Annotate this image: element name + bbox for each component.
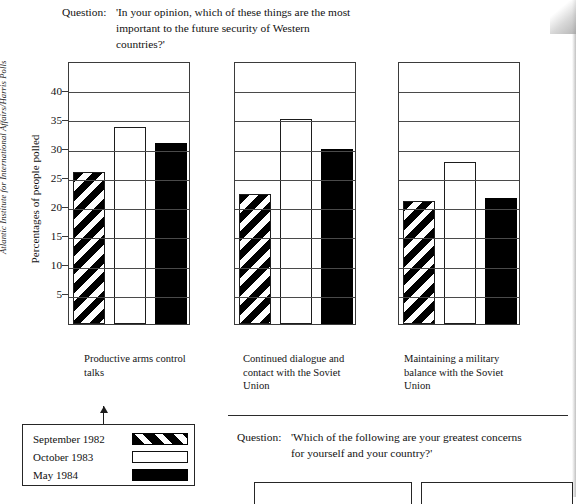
bar-3-september-1982 <box>403 201 435 324</box>
gridline-20 <box>399 209 519 210</box>
legend-label-october-1983: October 1983 <box>33 451 132 463</box>
gridline-10 <box>235 268 355 269</box>
y-tick-5: 5 <box>36 289 62 299</box>
category-label-2-line-2: contact with the Soviet <box>243 366 393 380</box>
question-bottom-line-2: for yourself and your country?' <box>291 446 522 462</box>
gridline-10 <box>69 268 189 269</box>
legend-label-september-1982: September 1982 <box>33 433 132 445</box>
y-tick-20: 20 <box>36 202 62 212</box>
category-label-2-line-1: Continued dialogue and <box>243 352 393 366</box>
gridline-35 <box>399 121 519 122</box>
category-label-2-line-3: Union <box>243 379 393 393</box>
bar-3-may-1984 <box>485 198 517 324</box>
lower-chart-panel-1 <box>254 482 412 504</box>
category-label-3-line-2: balance with the Soviet <box>404 366 554 380</box>
gridline-20 <box>235 209 355 210</box>
legend-item-may-1984: May 1984 <box>33 466 188 483</box>
question-bottom: Question: 'Which of the following are yo… <box>237 430 572 461</box>
gridline-30 <box>235 151 355 152</box>
legend-pointer-arrow-icon <box>103 406 104 425</box>
gridline-15 <box>235 238 355 239</box>
bar-1-october-1983 <box>114 127 146 324</box>
chart-panel-2 <box>234 62 356 325</box>
gridline-5 <box>235 297 355 298</box>
question-bottom-line-1: 'Which of the following are your greates… <box>291 430 522 446</box>
bar-1-september-1982 <box>73 172 105 324</box>
y-tick-40: 40 <box>36 86 62 96</box>
gridline-25 <box>69 180 189 181</box>
bar-2-september-1982 <box>239 194 271 324</box>
bar-group-1 <box>69 63 189 324</box>
bar-group-2 <box>235 63 355 324</box>
gridline-15 <box>399 238 519 239</box>
y-tick-35: 35 <box>36 115 62 125</box>
gridline-15 <box>69 238 189 239</box>
y-tick-10: 10 <box>36 260 62 270</box>
bar-chart: Percentages of people polled 40 35 30 25… <box>0 0 576 410</box>
legend-swatch-diagonal-stripes-icon <box>132 433 188 445</box>
legend: September 1982 October 1983 May 1984 <box>22 424 195 486</box>
category-label-3-line-3: Union <box>404 379 554 393</box>
legend-item-september-1982: September 1982 <box>33 430 188 447</box>
gridline-20 <box>69 209 189 210</box>
section-divider <box>228 415 568 416</box>
gridline-25 <box>399 180 519 181</box>
gridline-25 <box>235 180 355 181</box>
y-tick-30: 30 <box>36 144 62 154</box>
category-label-2: Continued dialogue and contact with the … <box>243 352 393 393</box>
gridline-30 <box>399 151 519 152</box>
legend-swatch-solid-black-icon <box>132 469 188 481</box>
gridline-35 <box>69 121 189 122</box>
y-tick-25: 25 <box>36 173 62 183</box>
gridline-40 <box>235 92 355 93</box>
category-label-1-line-2: talks <box>84 366 224 380</box>
gridline-5 <box>399 297 519 298</box>
category-label-1: Productive arms control talks <box>84 352 224 379</box>
chart-panel-3 <box>398 62 520 325</box>
legend-label-may-1984: May 1984 <box>33 469 132 481</box>
gridline-30 <box>69 151 189 152</box>
lower-chart-panel-2 <box>421 482 573 504</box>
gridline-35 <box>235 121 355 122</box>
category-label-1-line-1: Productive arms control <box>84 352 224 366</box>
gridline-10 <box>399 268 519 269</box>
bar-group-3 <box>399 63 519 324</box>
question-bottom-label: Question: <box>237 430 291 446</box>
gridline-40 <box>399 92 519 93</box>
question-bottom-text: 'Which of the following are your greates… <box>291 430 522 461</box>
legend-swatch-open-white-icon <box>132 451 188 463</box>
gridline-40 <box>69 92 189 93</box>
y-tick-15: 15 <box>36 231 62 241</box>
chart-panel-1 <box>68 62 190 325</box>
category-label-3: Maintaining a military balance with the … <box>404 352 554 393</box>
gridline-5 <box>69 297 189 298</box>
y-axis-ticks: 40 35 30 25 20 15 10 5 <box>36 0 62 410</box>
category-label-3-line-1: Maintaining a military <box>404 352 554 366</box>
bar-3-october-1983 <box>444 162 476 324</box>
legend-item-october-1983: October 1983 <box>33 448 188 465</box>
